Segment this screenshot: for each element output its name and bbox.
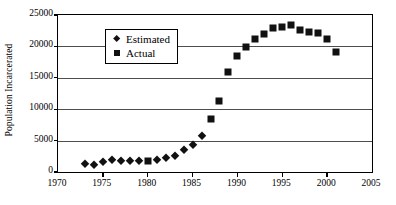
- y-tick-mark: [54, 109, 58, 110]
- data-point-estimated: [134, 157, 143, 166]
- data-point-actual: [324, 36, 331, 43]
- data-point-estimated: [188, 141, 197, 150]
- data-point-estimated: [116, 157, 125, 166]
- x-tick-mark: [192, 172, 193, 177]
- gridline: [58, 109, 372, 110]
- data-point-actual: [216, 98, 223, 105]
- x-tick-label: 1975: [92, 179, 111, 189]
- data-point-estimated: [98, 158, 107, 167]
- data-point-actual: [288, 22, 295, 29]
- x-tick-mark: [326, 172, 327, 177]
- data-point-actual: [315, 29, 322, 36]
- gridline: [58, 78, 372, 79]
- data-point-actual: [144, 157, 151, 164]
- y-tick-mark: [54, 14, 58, 15]
- square-marker-icon: [111, 50, 123, 56]
- data-point-actual: [306, 28, 313, 35]
- data-point-estimated: [89, 160, 98, 169]
- y-tick-mark: [54, 77, 58, 78]
- x-tick-label: 1970: [48, 179, 67, 189]
- chart-legend: Estimated Actual: [105, 29, 178, 64]
- data-point-estimated: [125, 157, 134, 166]
- data-point-estimated: [107, 156, 116, 165]
- data-point-estimated: [161, 153, 170, 162]
- y-tick-mark: [54, 140, 58, 141]
- data-point-estimated: [81, 160, 90, 169]
- data-point-actual: [234, 53, 241, 60]
- legend-item-estimated: Estimated: [111, 32, 170, 46]
- data-point-estimated: [197, 131, 206, 140]
- x-tick-label: 1995: [272, 179, 291, 189]
- x-tick-mark: [237, 172, 238, 177]
- gridline: [58, 141, 372, 142]
- diamond-marker-icon: [111, 36, 123, 41]
- chart-figure: Population Incarcerated 0500010000150002…: [0, 0, 396, 205]
- y-tick-mark: [54, 46, 58, 47]
- x-tick-mark: [102, 172, 103, 177]
- x-tick-label: 2000: [317, 179, 336, 189]
- x-tick-label: 1990: [227, 179, 246, 189]
- x-tick-label: 2005: [362, 179, 381, 189]
- data-point-actual: [270, 24, 277, 31]
- data-point-actual: [252, 35, 259, 42]
- plot-area: Estimated Actual: [57, 14, 373, 173]
- data-point-estimated: [170, 151, 179, 160]
- legend-label-estimated: Estimated: [126, 33, 170, 45]
- data-point-actual: [297, 27, 304, 34]
- data-point-actual: [261, 30, 268, 37]
- data-point-actual: [225, 69, 232, 76]
- legend-label-actual: Actual: [126, 47, 155, 59]
- x-tick-label: 1985: [182, 179, 201, 189]
- data-point-actual: [243, 44, 250, 51]
- legend-item-actual: Actual: [111, 46, 170, 60]
- x-tick-mark: [147, 172, 148, 177]
- data-point-actual: [279, 23, 286, 30]
- x-tick-label: 1980: [137, 179, 156, 189]
- data-point-actual: [333, 48, 340, 55]
- data-point-estimated: [152, 156, 161, 165]
- data-point-estimated: [179, 146, 188, 155]
- y-tick-mark: [54, 171, 58, 172]
- data-point-actual: [207, 116, 214, 123]
- x-tick-mark: [282, 172, 283, 177]
